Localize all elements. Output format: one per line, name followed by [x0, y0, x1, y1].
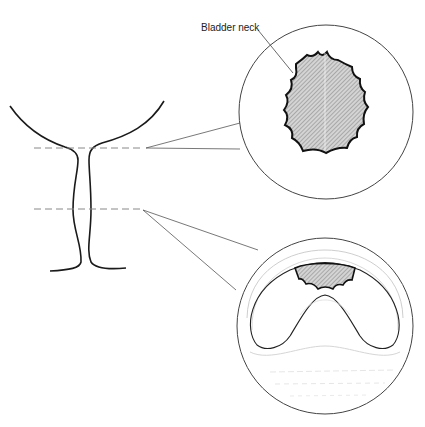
urethra-cross-section-diagram: Bladder neck — [0, 0, 425, 427]
bladder-wall-left — [10, 106, 81, 271]
bladder-wall-right — [89, 101, 164, 269]
connector-lines — [143, 123, 258, 290]
upper-cross-section: Bladder neck — [201, 22, 413, 199]
bladder-neck-label: Bladder neck — [201, 22, 260, 33]
longitudinal-view — [10, 101, 164, 271]
lower-cross-section — [237, 238, 413, 414]
